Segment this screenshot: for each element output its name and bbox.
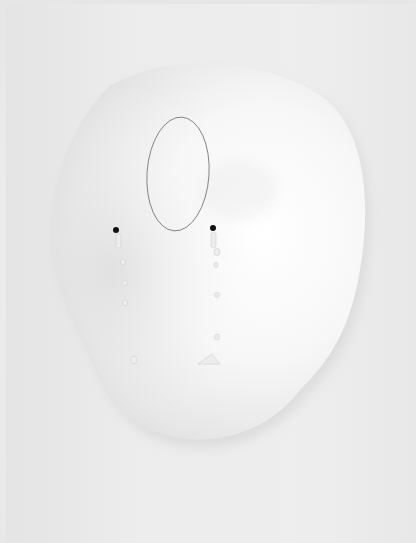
relief-left-shading — [52, 64, 366, 440]
photo-frame — [0, 0, 416, 543]
left-dot — [113, 227, 119, 233]
right-dot — [210, 225, 216, 231]
relief-artwork — [0, 0, 416, 543]
surface-dimple — [198, 160, 278, 220]
